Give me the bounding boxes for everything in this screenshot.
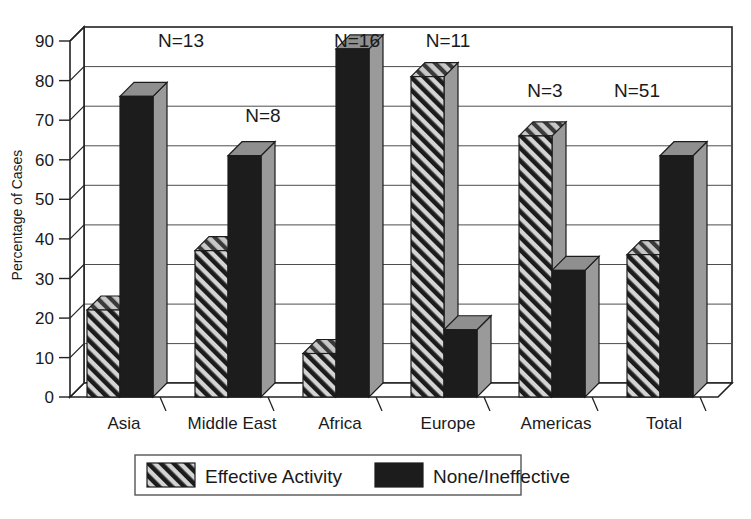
y-axis-title: Percentage of Cases — [9, 150, 25, 281]
annotation-n-total: N=51 — [614, 80, 660, 101]
ytick-label-20: 20 — [35, 309, 54, 328]
ytick-label-90: 90 — [35, 32, 54, 51]
x-axis-label-middle-east: Middle East — [188, 414, 277, 433]
ytick-label-70: 70 — [35, 111, 54, 130]
bar-middle-east-none-ineffective — [228, 142, 275, 397]
bar-front-face — [411, 77, 444, 397]
plot-left-wall — [70, 27, 84, 397]
legend-swatch-none-ineffective — [375, 463, 423, 487]
legend-label-none-ineffective: None/Ineffective — [433, 466, 570, 487]
bar-africa-none-ineffective — [336, 35, 383, 397]
bar-side-face — [369, 35, 383, 397]
bar-side-face — [693, 142, 707, 397]
x-axis-label-americas: Americas — [521, 414, 592, 433]
ytick-label-40: 40 — [35, 230, 54, 249]
bar-front-face — [120, 96, 153, 397]
chart-svg: 90 80 70 60 50 40 30 20 10 0 N=13N=8N=16… — [0, 0, 751, 519]
x-axis-label-africa: Africa — [318, 414, 362, 433]
bar-front-face — [660, 156, 693, 397]
bar-europe-none-ineffective — [444, 316, 491, 397]
bar-front-face — [627, 255, 660, 397]
ytick-label-60: 60 — [35, 151, 54, 170]
x-axis-label-europe: Europe — [421, 414, 476, 433]
bar-front-face — [195, 251, 228, 397]
bar-front-face — [303, 353, 336, 397]
bar-side-face — [585, 256, 599, 397]
bar-total-none-ineffective — [660, 142, 707, 397]
annotation-n-europe: N=11 — [426, 30, 471, 51]
bar-asia-none-ineffective — [120, 82, 167, 397]
annotation-n-asia: N=13 — [158, 30, 204, 51]
bar-chart-figure: 90 80 70 60 50 40 30 20 10 0 N=13N=8N=16… — [0, 0, 751, 519]
bar-front-face — [87, 310, 120, 397]
ytick-label-10: 10 — [35, 349, 54, 368]
ytick-label-50: 50 — [35, 190, 54, 209]
annotation-n-middle-east: N=8 — [245, 105, 280, 126]
annotation-n-africa: N=16 — [334, 30, 380, 51]
ytick-label-0: 0 — [45, 388, 54, 407]
x-axis-label-asia: Asia — [107, 414, 141, 433]
plot-area: 90 80 70 60 50 40 30 20 10 0 N=13N=8N=16… — [35, 27, 732, 433]
legend-swatch-effective-activity — [147, 463, 195, 487]
ytick-label-80: 80 — [35, 72, 54, 91]
bar-front-face — [519, 136, 552, 397]
bar-front-face — [444, 330, 477, 397]
legend: Effective Activity None/Ineffective — [135, 455, 570, 495]
legend-label-effective-activity: Effective Activity — [205, 466, 342, 487]
bar-front-face — [336, 49, 369, 397]
bar-side-face — [261, 142, 275, 397]
x-axis-label-total: Total — [646, 414, 682, 433]
bar-front-face — [228, 156, 261, 397]
bar-americas-none-ineffective — [552, 256, 599, 397]
bar-front-face — [552, 270, 585, 397]
annotation-n-americas: N=3 — [527, 80, 562, 101]
bar-side-face — [153, 82, 167, 397]
ytick-label-30: 30 — [35, 270, 54, 289]
